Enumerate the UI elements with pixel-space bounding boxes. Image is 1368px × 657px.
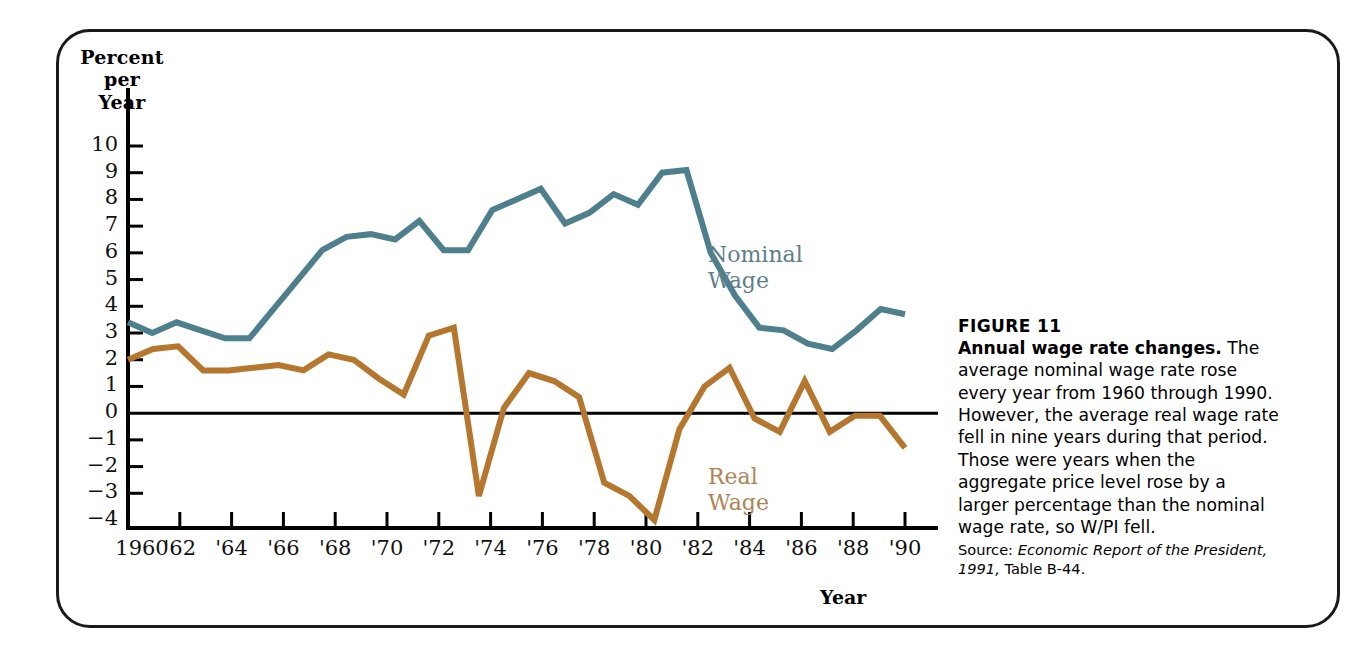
y-tick-label: −1 (62, 426, 118, 450)
source-prefix: Source: (958, 541, 1018, 558)
x-tick-label: '70 (364, 536, 410, 560)
y-tick-label: 4 (62, 292, 118, 316)
series-line-real-wage (128, 328, 905, 520)
x-tick-label: '72 (416, 536, 462, 560)
y-tick-label: 1 (62, 372, 118, 396)
x-tick-label: '80 (623, 536, 669, 560)
x-tick-label: '74 (468, 536, 514, 560)
y-tick-label: 9 (62, 159, 118, 183)
y-tick-label: 7 (62, 212, 118, 236)
chart-series (128, 170, 905, 520)
x-tick-label: '64 (209, 536, 255, 560)
series-label-nominal-line-1: Nominal (708, 242, 803, 268)
chart-area: Percent per Year 109876543210−1−2−3−4 19… (60, 30, 940, 630)
x-tick-label: '68 (312, 536, 358, 560)
caption-source: Source: Economic Report of the President… (958, 541, 1280, 578)
source-suffix: Table B-44. (1000, 560, 1086, 577)
figure-number: FIGURE 11 (958, 316, 1280, 336)
y-tick-label: 3 (62, 319, 118, 343)
caption-text: Annual wage rate changes. The average no… (958, 337, 1280, 538)
y-tick-label: 8 (62, 185, 118, 209)
y-tick-label: 2 (62, 346, 118, 370)
x-tick-label: '84 (727, 536, 773, 560)
y-tick-label: −3 (62, 479, 118, 503)
y-tick-label: 6 (62, 239, 118, 263)
caption-body: The average nominal wage rate rose every… (958, 338, 1279, 537)
series-label-real-wage: Real Wage (708, 464, 769, 515)
x-tick-label: '88 (830, 536, 876, 560)
y-tick-label: −2 (62, 453, 118, 477)
y-tick-label: 5 (62, 266, 118, 290)
x-tick-label: '78 (571, 536, 617, 560)
x-tick-label: '76 (519, 536, 565, 560)
x-tick-label: '90 (882, 536, 928, 560)
caption-lead: Annual wage rate changes. (958, 338, 1222, 358)
series-label-real-line-2: Wage (708, 490, 769, 516)
x-axis-title: Year (820, 586, 866, 608)
figure-caption: FIGURE 11 Annual wage rate changes. The … (958, 316, 1280, 579)
x-tick-label: '86 (778, 536, 824, 560)
y-tick-label: −4 (62, 506, 118, 530)
x-tick-label: '66 (260, 536, 306, 560)
x-tick-label: '82 (675, 536, 721, 560)
chart-axes (126, 88, 938, 528)
x-tick-label: '62 (157, 536, 203, 560)
y-tick-label: 0 (62, 399, 118, 423)
figure-root: Percent per Year 109876543210−1−2−3−4 19… (0, 0, 1368, 657)
series-label-nominal-wage: Nominal Wage (708, 242, 803, 293)
series-label-real-line-1: Real (708, 464, 769, 490)
y-tick-label: 10 (62, 132, 118, 156)
series-label-nominal-line-2: Wage (708, 268, 803, 294)
